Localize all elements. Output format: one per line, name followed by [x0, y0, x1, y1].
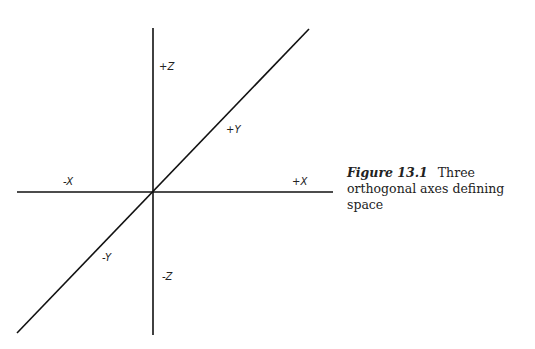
label-neg-x: -X	[63, 177, 73, 187]
label-pos-y: +Y	[226, 125, 241, 135]
figure-number: Figure 13.1	[347, 165, 428, 180]
figure-caption: Figure 13.1 Three orthogonal axes defini…	[347, 165, 532, 213]
y-axis-line	[17, 29, 309, 333]
label-pos-z: +Z	[159, 62, 174, 72]
label-neg-y: -Y	[102, 253, 111, 263]
label-neg-z: -Z	[162, 272, 172, 282]
label-pos-x: +X	[292, 177, 307, 187]
